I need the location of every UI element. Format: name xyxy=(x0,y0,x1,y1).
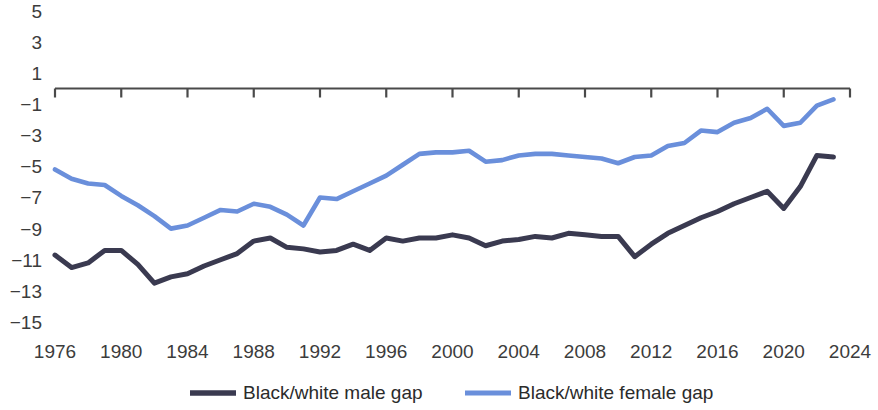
y-axis-tick-label: −9 xyxy=(20,219,42,240)
y-axis-tick-label: 3 xyxy=(31,32,42,53)
chart-container: 531−1−3−5−7−9−11−13−15 19761980198419881… xyxy=(0,0,878,410)
x-axis-tick-label: 1992 xyxy=(299,341,341,362)
y-axis-tick-labels: 531−1−3−5−7−9−11−13−15 xyxy=(10,1,42,333)
x-axis-tick-label: 1980 xyxy=(100,341,142,362)
x-axis-tick-label: 2024 xyxy=(829,341,872,362)
x-axis-tick-label: 1976 xyxy=(34,341,76,362)
x-axis-tick-label: 2000 xyxy=(431,341,473,362)
legend-label-2: Black/white female gap xyxy=(518,382,713,403)
y-axis-tick-label: −15 xyxy=(10,312,42,333)
x-axis-tick-label: 2016 xyxy=(696,341,738,362)
y-axis-tick-label: 1 xyxy=(31,63,42,84)
x-axis-tick-label: 2020 xyxy=(763,341,805,362)
legend-label-1: Black/white male gap xyxy=(243,382,423,403)
x-axis-tick-label: 2008 xyxy=(564,341,606,362)
x-axis-tick-label: 2004 xyxy=(498,341,541,362)
x-axis-tick-label: 2012 xyxy=(630,341,672,362)
chart-legend: Black/white male gapBlack/white female g… xyxy=(190,382,713,403)
y-axis-tick-label: −7 xyxy=(20,187,42,208)
line-chart: 531−1−3−5−7−9−11−13−15 19761980198419881… xyxy=(0,0,878,410)
series-line-1 xyxy=(55,155,833,283)
x-axis-tick-label: 1996 xyxy=(365,341,407,362)
x-axis xyxy=(55,89,850,98)
y-axis-tick-label: −3 xyxy=(20,125,42,146)
y-axis-tick-label: −5 xyxy=(20,156,42,177)
y-axis-tick-label: −1 xyxy=(20,94,42,115)
y-axis-tick-label: −11 xyxy=(11,250,42,271)
x-axis-tick-label: 1984 xyxy=(166,341,209,362)
x-axis-tick-labels: 1976198019841988199219962000200420082012… xyxy=(34,341,872,362)
y-axis-tick-label: −13 xyxy=(10,281,42,302)
x-axis-tick-label: 1988 xyxy=(233,341,275,362)
y-axis-tick-label: 5 xyxy=(31,1,42,22)
data-series-group xyxy=(55,99,833,283)
